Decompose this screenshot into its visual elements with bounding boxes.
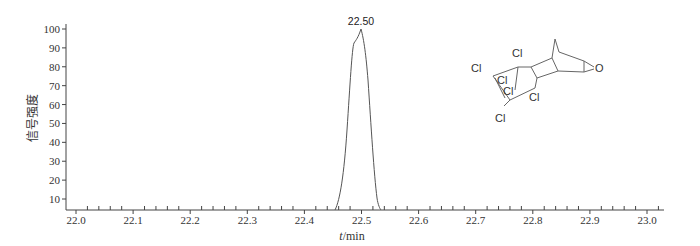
x-tick-label: 22.9 xyxy=(580,214,600,226)
structure-atom-labels: Cl Cl Cl Cl Cl Cl O xyxy=(471,47,604,124)
y-tick-label: 30 xyxy=(49,155,61,167)
x-tick-label: 22.2 xyxy=(181,214,200,226)
y-tick-label: 100 xyxy=(44,23,61,35)
x-tick-label: 22.8 xyxy=(523,214,543,226)
y-tick-label: 60 xyxy=(49,99,61,111)
chromatogram-chart: 102030405060708090100 22.022.122.222.322… xyxy=(0,0,700,246)
peak-label: 22.50 xyxy=(348,15,374,27)
x-tick-label: 22.6 xyxy=(409,214,429,226)
x-axis-title: t/min xyxy=(339,229,364,243)
y-tick-label: 80 xyxy=(49,61,61,73)
x-tick-label: 22.3 xyxy=(238,214,258,226)
y-tick-label: 40 xyxy=(49,136,61,148)
y-ticks: 102030405060708090100 xyxy=(44,23,67,205)
chromatogram-trace xyxy=(335,29,381,210)
y-axis-title: 信号强度 xyxy=(25,94,40,142)
x-tick-label: 22.4 xyxy=(295,214,315,226)
y-tick-label: 90 xyxy=(49,42,61,54)
atom-o: O xyxy=(595,62,604,74)
atom-cl-1: Cl xyxy=(512,47,522,59)
atom-cl-6: Cl xyxy=(495,112,505,124)
y-tick-label: 70 xyxy=(49,80,61,92)
y-tick-label: 20 xyxy=(49,174,61,186)
x-tick-label: 22.5 xyxy=(352,214,372,226)
atom-cl-4: Cl xyxy=(503,85,513,97)
atom-cl-5: Cl xyxy=(529,91,539,103)
x-tick-label: 22.0 xyxy=(66,214,86,226)
x-tick-label: 22.1 xyxy=(123,214,142,226)
y-tick-label: 50 xyxy=(49,117,61,129)
x-tick-label: 22.7 xyxy=(466,214,486,226)
x-ticks: 22.022.122.222.322.422.522.622.722.822.9… xyxy=(66,206,658,226)
y-tick-label: 10 xyxy=(49,193,61,205)
x-tick-label: 23.0 xyxy=(637,214,657,226)
x-axis-title-unit: /min xyxy=(343,229,365,243)
atom-cl-2: Cl xyxy=(471,62,481,74)
